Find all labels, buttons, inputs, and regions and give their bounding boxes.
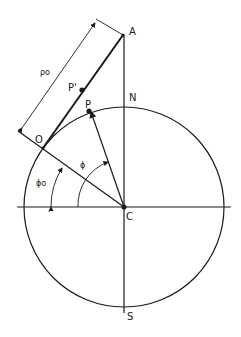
phi0-arc — [51, 168, 62, 207]
label-N: N — [129, 92, 136, 103]
geometry-diagram: A N P P' O C S ρo ϕ ϕo — [0, 0, 241, 337]
label-phi0: ϕo — [36, 179, 46, 188]
rho0-extension — [96, 19, 123, 35]
rho0-dimension-line — [22, 23, 95, 128]
label-rho0: ρo — [40, 68, 50, 77]
line-C-O-extended — [18, 131, 124, 207]
label-P: P — [85, 99, 91, 110]
label-A: A — [129, 26, 136, 37]
label-C: C — [126, 211, 133, 222]
line-C-P — [91, 112, 124, 207]
label-S: S — [127, 311, 133, 322]
label-O: O — [35, 134, 43, 145]
label-phi: ϕ — [80, 161, 85, 170]
label-P-prime: P' — [68, 82, 77, 93]
